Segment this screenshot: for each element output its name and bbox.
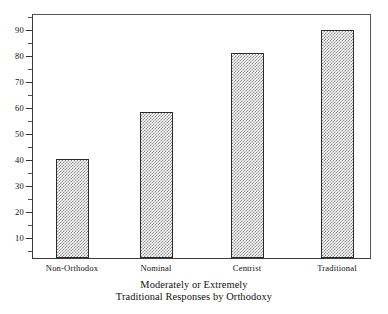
y-tick-minor-85 xyxy=(28,43,32,44)
bar-traditional xyxy=(321,30,354,258)
y-tick-minor-45 xyxy=(28,147,32,148)
y-axis-label-70: 70 xyxy=(0,78,24,87)
y-tick-minor-65 xyxy=(28,95,32,96)
y-tick-major-40 xyxy=(26,160,32,161)
y-tick-major-30 xyxy=(26,186,32,187)
y-axis-label-90: 90 xyxy=(0,26,24,35)
y-axis-label-10: 10 xyxy=(0,234,24,243)
y-axis-label-20: 20 xyxy=(0,208,24,217)
bar-non-orthodox xyxy=(56,159,89,258)
y-axis-label-50: 50 xyxy=(0,130,24,139)
caption-line-1: Moderately or Extremely xyxy=(0,279,388,291)
x-axis-label-nominal: Nominal xyxy=(108,263,204,273)
y-tick-major-20 xyxy=(26,212,32,213)
y-axis-label-40: 40 xyxy=(0,156,24,165)
bar-nominal xyxy=(140,112,173,258)
y-tick-minor-15 xyxy=(28,225,32,226)
caption-line-2: Traditional Responses by Orthodoxy xyxy=(0,291,388,303)
y-tick-minor-5 xyxy=(28,251,32,252)
y-tick-major-60 xyxy=(26,108,32,109)
y-tick-major-90 xyxy=(26,30,32,31)
x-axis-label-traditional: Traditional xyxy=(289,263,385,273)
y-tick-major-80 xyxy=(26,56,32,57)
y-tick-minor-35 xyxy=(28,173,32,174)
figure-caption: Moderately or Extremely Traditional Resp… xyxy=(0,279,388,304)
y-tick-minor-55 xyxy=(28,121,32,122)
bar-chart-figure: 90 80 70 60 50 40 30 20 10 Non-Orthodox … xyxy=(0,0,388,314)
bar-centrist xyxy=(231,53,264,258)
y-axis-label-30: 30 xyxy=(0,182,24,191)
y-tick-minor-75 xyxy=(28,69,32,70)
x-axis-label-centrist: Centrist xyxy=(199,263,295,273)
y-tick-minor-25 xyxy=(28,199,32,200)
y-tick-major-10 xyxy=(26,238,32,239)
x-axis-label-non-orthodox: Non-Orthodox xyxy=(24,263,120,273)
y-axis-label-80: 80 xyxy=(0,52,24,61)
y-axis-label-60: 60 xyxy=(0,104,24,113)
y-tick-minor-95 xyxy=(28,17,32,18)
y-tick-major-50 xyxy=(26,134,32,135)
y-tick-major-70 xyxy=(26,82,32,83)
